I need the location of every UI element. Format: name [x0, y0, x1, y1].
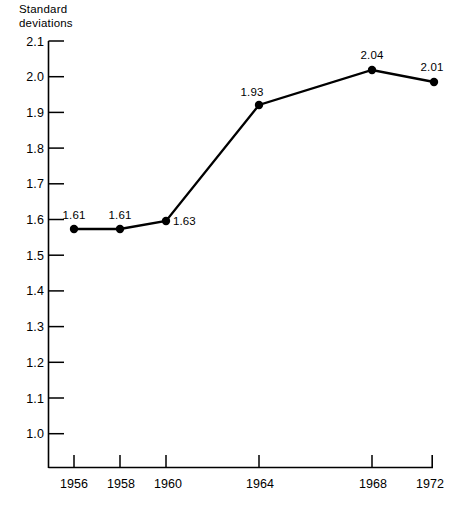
x-tick-label: 1964: [246, 477, 274, 491]
y-tick-label: 1.6: [26, 213, 44, 227]
data-point-label: 1.61: [63, 209, 86, 221]
data-point: [430, 78, 438, 86]
y-tick-label: 2.0: [26, 70, 44, 84]
data-point-label: 2.01: [421, 61, 444, 73]
y-tick-label: 2.1: [26, 35, 44, 49]
data-point-label: 2.04: [361, 49, 384, 61]
data-point: [70, 225, 78, 233]
data-point-label: 1.93: [241, 86, 264, 98]
y-tick-label: 1.7: [26, 177, 44, 191]
line-chart: Standard deviations 2.1 2.0 1.9: [0, 0, 455, 507]
y-tick-label: 1.2: [26, 356, 44, 370]
x-tick-label: 1968: [359, 477, 387, 491]
y-tick-label: 1.9: [26, 106, 44, 120]
x-tick-label: 1972: [416, 477, 444, 491]
data-point-label: 1.63: [173, 215, 196, 227]
y-tick-label: 1.0: [26, 427, 44, 441]
y-axis-title-line1: Standard: [19, 3, 67, 15]
data-point-labels: 1.61 1.61 1.63 1.93 2.04 2.01: [63, 49, 444, 227]
y-axis-tick-labels: 2.1 2.0 1.9 1.8 1.7 1.6 1.5 1.4 1.3 1.2 …: [26, 35, 44, 442]
chart-canvas: Standard deviations 2.1 2.0 1.9: [0, 0, 455, 507]
x-axis-ticks: [74, 455, 372, 468]
data-point-label: 1.61: [109, 209, 132, 221]
x-tick-label: 1960: [154, 477, 182, 491]
x-tick-label: 1956: [60, 477, 88, 491]
data-point: [162, 217, 170, 225]
x-axis-tick-labels: 1956 1958 1960 1964 1968 1972: [60, 477, 444, 491]
y-tick-label: 1.3: [26, 320, 44, 334]
data-point: [116, 225, 124, 233]
y-axis-title-line2: deviations: [19, 17, 73, 29]
data-point: [368, 66, 376, 74]
y-axis-ticks: [49, 41, 65, 434]
y-tick-label: 1.4: [26, 284, 44, 298]
data-point: [255, 101, 263, 109]
y-tick-label: 1.8: [26, 142, 44, 156]
x-tick-label: 1958: [107, 477, 135, 491]
y-tick-label: 1.1: [26, 392, 44, 406]
y-tick-label: 1.5: [26, 249, 44, 263]
